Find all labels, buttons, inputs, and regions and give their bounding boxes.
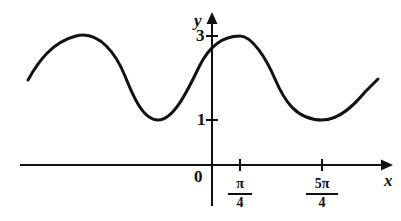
x-axis-arrowhead: [381, 160, 393, 171]
sinusoid-curve: [28, 35, 378, 120]
x-tick-label-5pi-over-4: 5π 4: [306, 177, 338, 210]
y-axis: [207, 12, 218, 206]
x-axis-label: x: [384, 172, 393, 189]
fraction-denominator: 4: [228, 195, 252, 211]
y-tick-label-3: 3: [196, 27, 205, 44]
y-axis-arrowhead: [207, 12, 218, 24]
fraction-numerator: π: [228, 177, 252, 193]
y-tick-label-1: 1: [197, 111, 206, 128]
fraction-numerator: 5π: [306, 177, 338, 193]
x-tick-label-pi-over-4: π 4: [228, 177, 252, 210]
fraction-denominator: 4: [306, 195, 338, 211]
origin-label: 0: [194, 168, 203, 185]
graph-figure: y x 3 1 0 π 4 5π 4: [0, 0, 401, 221]
x-axis: [20, 160, 393, 171]
